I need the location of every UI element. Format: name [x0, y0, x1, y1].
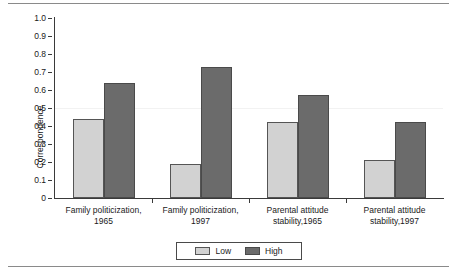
bar-high[interactable]	[298, 95, 329, 198]
y-axis-tick-mark	[48, 144, 52, 145]
y-axis-tick-mark	[48, 72, 52, 73]
y-axis-tick-label: 0.7	[34, 68, 46, 77]
y-axis-tick-mark	[48, 108, 52, 109]
bar-group	[249, 18, 346, 198]
bottom-divider-rule	[8, 266, 449, 267]
bar-group	[152, 18, 249, 198]
x-axis-category-label: Parental attitudestability,1965	[245, 205, 350, 227]
bar-high[interactable]	[395, 122, 426, 198]
x-axis-category-label: Parental attitudestability,1997	[342, 205, 447, 227]
legend-swatch-low-icon	[195, 247, 210, 255]
x-axis-category-label-line1: Parental attitude	[267, 205, 329, 215]
y-axis-tick-label: 0.3	[34, 140, 46, 149]
x-axis-separator-tick	[249, 198, 250, 203]
y-axis-tick-label: 0.8	[34, 50, 46, 59]
x-axis-category-label: Family politicization,1997	[148, 205, 253, 227]
x-axis-category-label-line2: stability,1997	[342, 216, 447, 227]
x-axis-category-label-line2: 1997	[148, 216, 253, 227]
x-axis-separator-tick	[346, 198, 347, 203]
y-axis-tick-label: 0.9	[34, 32, 46, 41]
plot-area: 1.00.90.80.70.60.50.40.30.20.10	[55, 18, 443, 198]
y-axis-tick-mark	[48, 126, 52, 127]
legend-item-high[interactable]: High	[245, 246, 282, 256]
legend-label-high: High	[265, 246, 282, 256]
y-axis-tick-label: 0.2	[34, 158, 46, 167]
x-axis-category-label: Family politicization,1965	[51, 205, 156, 227]
y-axis-tick-label: 0	[41, 194, 46, 203]
x-axis-category-label-line1: Parental attitude	[364, 205, 426, 215]
y-axis-tick-mark	[48, 162, 52, 163]
y-axis-tick-mark	[48, 36, 52, 37]
y-axis-tick-mark	[48, 180, 52, 181]
legend-label-low: Low	[215, 246, 231, 256]
bar-low[interactable]	[267, 122, 298, 198]
y-axis-tick-label: 0.6	[34, 86, 46, 95]
y-axis-tick-mark	[48, 90, 52, 91]
legend-swatch-high-icon	[245, 247, 260, 255]
y-axis-tick-label: 0.4	[34, 122, 46, 131]
y-axis-tick-label: 0.5	[34, 104, 46, 113]
bar-group	[346, 18, 443, 198]
bar-group	[55, 18, 152, 198]
legend-item-low[interactable]: Low	[195, 246, 231, 256]
top-divider-rule	[8, 3, 449, 4]
bar-low[interactable]	[170, 164, 201, 198]
y-axis-tick-mark	[48, 54, 52, 55]
y-axis-tick-mark	[48, 198, 52, 199]
chart-legend: Low High	[176, 242, 302, 260]
x-axis-category-label-line1: Family politicization,	[162, 205, 238, 215]
bar-high[interactable]	[201, 67, 232, 198]
bar-high[interactable]	[104, 83, 135, 198]
y-axis-tick-label: 0.1	[34, 176, 46, 185]
x-axis-category-label-line2: stability,1965	[245, 216, 350, 227]
y-axis-tick-label: 1.0	[34, 14, 46, 23]
bar-low[interactable]	[73, 119, 104, 198]
y-axis-tick-mark	[48, 18, 52, 19]
x-axis-separator-tick	[152, 198, 153, 203]
x-axis-category-label-line1: Family politicization,	[65, 205, 141, 215]
bar-low[interactable]	[364, 160, 395, 198]
x-axis-category-label-line2: 1965	[51, 216, 156, 227]
figure-container: Correspondence 1.00.90.80.70.60.50.40.30…	[0, 0, 457, 274]
